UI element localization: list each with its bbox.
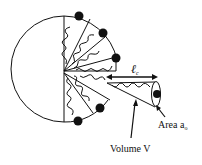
micelle-diagram: ℓc Area ao Volume V — [0, 0, 202, 165]
area-pointer — [156, 105, 165, 117]
head-group — [75, 12, 84, 21]
head-group — [74, 117, 83, 126]
cone-head-group — [153, 90, 161, 98]
area-label: Area ao — [158, 119, 187, 131]
wedge-lines — [64, 19, 116, 113]
length-label: ℓc — [131, 62, 139, 76]
head-group — [96, 104, 105, 113]
micelle-outline — [11, 16, 64, 122]
volume-label: Volume V — [110, 143, 151, 154]
volume-pointer — [131, 99, 138, 138]
detached-cone — [107, 82, 161, 108]
head-group — [112, 54, 121, 63]
head-group — [99, 29, 108, 38]
